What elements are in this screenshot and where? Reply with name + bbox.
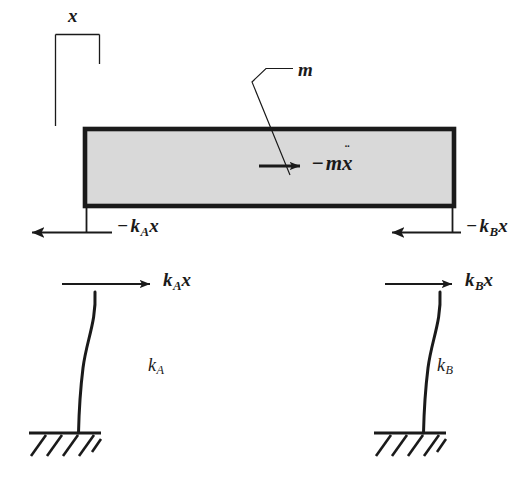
k-subscript: B — [445, 363, 453, 377]
x-symbol: x — [149, 215, 159, 236]
k-symbol: k — [437, 355, 445, 375]
stiffness-label-b: kB — [437, 356, 453, 377]
support-a — [29, 433, 101, 456]
k-subscript: A — [140, 224, 149, 239]
k-symbol: k — [465, 269, 475, 290]
stiffness-label-a: kA — [148, 356, 164, 377]
x-symbol: x — [498, 215, 508, 236]
support-b — [374, 433, 446, 456]
minus-sign: − — [466, 215, 480, 236]
inertia-minus-sign: − — [311, 151, 326, 175]
minus-sign: − — [117, 215, 131, 236]
column-a — [79, 292, 96, 433]
k-symbol: k — [148, 355, 156, 375]
force-label-minus-kb-x: −kBx — [466, 216, 508, 239]
k-symbol: k — [163, 269, 173, 290]
mass-label: m — [298, 60, 313, 79]
k-symbol: k — [480, 215, 490, 236]
k-symbol: k — [131, 215, 141, 236]
force-label-ka-x: kAx — [163, 270, 191, 293]
free-body-diagram: x m −m¨x −kAx −kBx kAx kBx kA kB — [0, 0, 521, 479]
inertia-force-label: −m¨x — [311, 153, 353, 174]
displacement-label: x — [68, 6, 78, 25]
inertia-accel-symbol: ¨x — [342, 153, 353, 174]
inertia-mass-symbol: m — [326, 151, 342, 175]
force-label-minus-ka-x: −kAx — [117, 216, 159, 239]
k-subscript: B — [489, 224, 498, 239]
displacement-bracket — [56, 35, 100, 127]
diagram-canvas — [0, 0, 521, 479]
k-subscript: A — [156, 363, 164, 377]
double-dot-accent: ¨ — [345, 143, 351, 158]
force-label-kb-x: kBx — [465, 270, 493, 293]
k-subscript: B — [475, 278, 484, 293]
k-subscript: A — [173, 278, 182, 293]
x-symbol: x — [484, 269, 494, 290]
x-symbol: x — [182, 269, 192, 290]
